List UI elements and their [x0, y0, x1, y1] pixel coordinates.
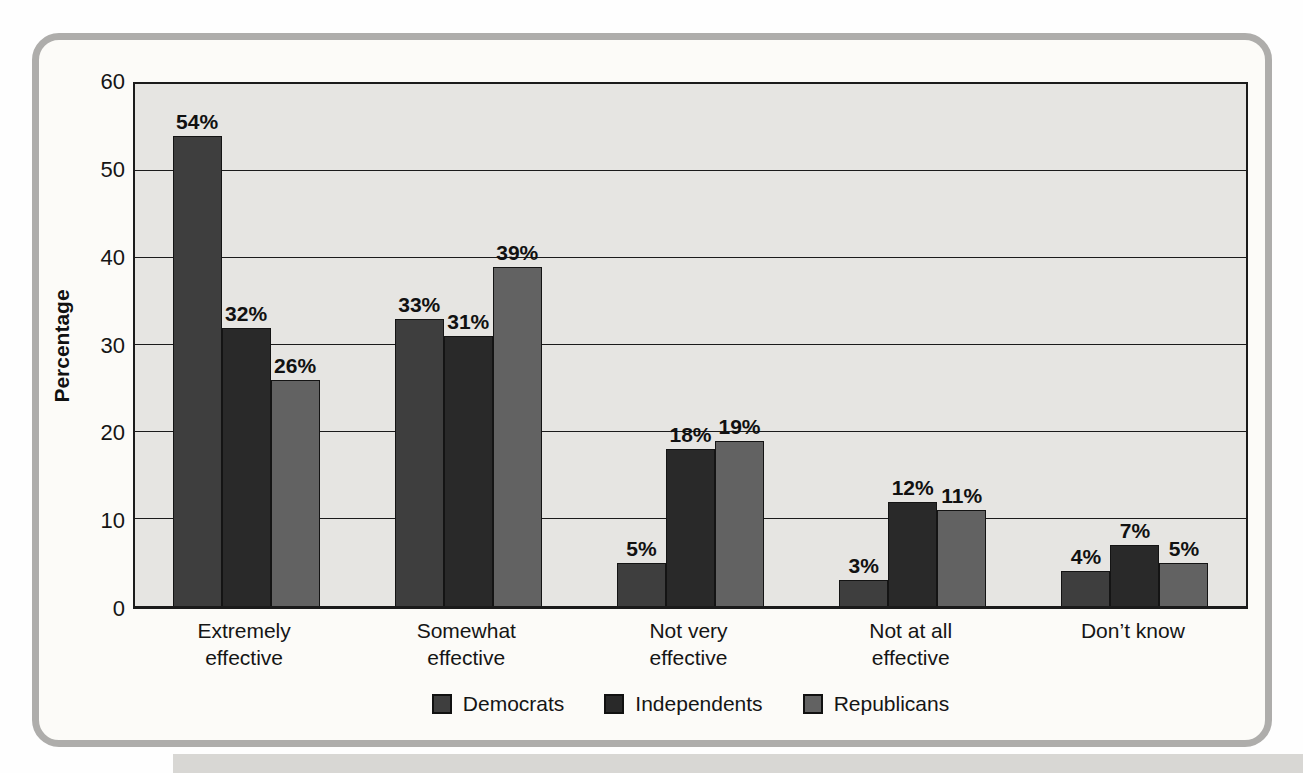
category-label-line: effective [800, 644, 1022, 671]
bar-value-label: 26% [274, 354, 316, 378]
bar-independents: 31% [444, 336, 493, 606]
legend-swatch [803, 694, 823, 714]
bar-independents: 12% [888, 502, 937, 606]
legend-item-independents: Independents [604, 692, 762, 716]
x-category-labels: ExtremelyeffectiveSomewhateffectiveNot v… [133, 617, 1248, 675]
y-tick-label: 40 [101, 245, 125, 271]
category-label-line: effective [577, 644, 799, 671]
legend-swatch [604, 694, 624, 714]
category-label: Not veryeffective [577, 617, 799, 671]
bar-value-label: 32% [225, 302, 267, 326]
y-tick-label: 60 [101, 69, 125, 95]
category-label-line: Not at all [800, 617, 1022, 644]
legend-label: Democrats [463, 692, 565, 716]
bar-value-label: 3% [849, 554, 879, 578]
legend-item-republicans: Republicans [803, 692, 950, 716]
category-label-line: effective [355, 644, 577, 671]
legend-label: Independents [635, 692, 762, 716]
legend: DemocratsIndependentsRepublicans [133, 692, 1248, 716]
page-bottom-band [173, 754, 1303, 773]
bar-democrats: 54% [173, 136, 222, 606]
category-label-line: effective [133, 644, 355, 671]
category-label-line: Don’t know [1022, 617, 1244, 644]
y-tick-label: 10 [101, 508, 125, 534]
bar-independents: 18% [666, 449, 715, 606]
legend-label: Republicans [834, 692, 950, 716]
bar-democrats: 3% [839, 580, 888, 606]
category-label-line: Not very [577, 617, 799, 644]
category-label: Extremelyeffective [133, 617, 355, 671]
bar-value-label: 4% [1071, 545, 1101, 569]
bar-republicans: 39% [493, 267, 542, 606]
bar-value-label: 19% [718, 415, 760, 439]
y-tick-label: 50 [101, 157, 125, 183]
bar-value-label: 18% [669, 423, 711, 447]
bar-group: 3%12%11% [802, 84, 1024, 606]
bar-independents: 32% [222, 328, 271, 606]
bar-value-label: 11% [941, 484, 982, 508]
bar-value-label: 7% [1120, 519, 1150, 543]
y-tick-labels: 0102030405060 [52, 82, 125, 609]
bar-republicans: 26% [271, 380, 320, 606]
bar-republicans: 11% [937, 510, 986, 606]
legend-item-democrats: Democrats [432, 692, 565, 716]
category-label-line: Extremely [133, 617, 355, 644]
bar-value-label: 39% [496, 241, 538, 265]
bar-value-label: 31% [447, 310, 489, 334]
bar-democrats: 5% [617, 563, 666, 607]
bar-republicans: 5% [1159, 563, 1208, 607]
bar-group: 5%18%19% [579, 84, 801, 606]
bar-group: 33%31%39% [357, 84, 579, 606]
category-label: Don’t know [1022, 617, 1244, 644]
bar-value-label: 12% [892, 476, 934, 500]
bar-group: 4%7%5% [1024, 84, 1246, 606]
bar-group: 54%32%26% [135, 84, 357, 606]
legend-swatch [432, 694, 452, 714]
y-tick-label: 30 [101, 333, 125, 359]
bar-democrats: 33% [395, 319, 444, 606]
bar-value-label: 33% [398, 293, 440, 317]
y-tick-label: 0 [113, 596, 125, 622]
page: Percentage 0102030405060 54%32%26%33%31%… [0, 0, 1303, 773]
plot-area: 54%32%26%33%31%39%5%18%19%3%12%11%4%7%5% [133, 82, 1248, 609]
bar-democrats: 4% [1061, 571, 1110, 606]
bar-independents: 7% [1110, 545, 1159, 606]
bar-value-label: 5% [1169, 537, 1199, 561]
category-label: Somewhateffective [355, 617, 577, 671]
category-label: Not at alleffective [800, 617, 1022, 671]
bar-value-label: 54% [176, 110, 218, 134]
bar-value-label: 5% [626, 537, 656, 561]
bar-republicans: 19% [715, 441, 764, 606]
category-label-line: Somewhat [355, 617, 577, 644]
y-tick-label: 20 [101, 420, 125, 446]
